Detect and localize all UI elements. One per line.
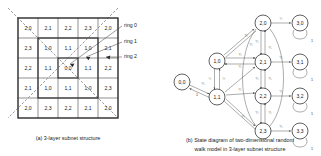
grid-cell-0-2: 2,2 [64,25,71,31]
self-loop-label-32: 1 [311,112,313,116]
state-node-2-2: 2,2 [260,94,267,99]
edge-label-23-22: ¼ [269,111,273,115]
state-node-2-1: 2,1 [260,60,267,65]
grid-cell-2-4: 2,2 [104,65,111,71]
grid-cell-4-1: 2,3 [44,105,51,111]
edge-label-11-00-back: ¼ [202,82,206,86]
grid-cell-3-0: 2,1 [24,85,31,91]
edge-label-10-21: ¼ [239,53,243,57]
edge-10-21 [225,58,256,64]
edge-label-22-21: ¼ [269,77,273,81]
edge-label-00-11-out: 1 [196,93,198,97]
panel-a-caption: (a) 3-layer subnet structure [36,135,101,141]
grid-cell-3-4: 2,3 [104,85,111,91]
edge-label-22-23: ¼ [256,111,260,115]
grid-cell-0-1: 2,1 [44,25,51,31]
grid-cell-1-1: 1,0 [44,45,51,51]
grid-cell-1-2: 1,1 [64,45,71,51]
panel-b-state-diagram: 1 ¼ ½ ½ ¼ ¼ ¼ ¼ [160,0,321,156]
grid-cell-4-0: 2,0 [24,105,31,111]
grid-cell-2-0: 2,2 [24,65,31,71]
edge-label-21-10: ¼ [239,65,243,69]
grid-cell-3-1: 1,0 [44,85,51,91]
edge-fan-11 [224,67,255,129]
self-loop-label-30: 1 [311,39,313,43]
ring-label-1: ring 1 [124,38,137,44]
state-nodes [174,15,308,139]
panel-a-subnet-structure: 2,0 2,1 2,2 2,3 2,0 2,3 1,0 1,1 1,0 2,1 … [0,0,160,156]
state-node-2-0: 2,0 [260,21,267,26]
grid-cell-2-1: 1,1 [44,65,51,71]
edge-label-20-30: ½ [280,17,283,21]
edge-to-absorbing [271,23,291,131]
edge-label-11-23: ¼ [242,115,246,119]
edge-10-11 [215,69,220,90]
grid-cell-0-0: 2,0 [24,25,31,31]
self-loop-label-31: 1 [311,78,313,82]
edge-label-21-20: ¼ [269,46,273,50]
state-node-3-3: 3,3 [297,129,304,134]
edge-chain-ring2 [261,30,265,124]
ring-label-0: ring 0 [124,22,137,28]
subnet-grid-svg: 2,0 2,1 2,2 2,3 2,0 2,3 1,0 1,1 1,0 2,1 … [0,0,160,156]
grid-cell-1-3: 1,0 [84,45,91,51]
grid-cell-3-3: 1,0 [84,85,91,91]
state-node-1-0: 1,0 [214,59,221,64]
edge-label-21-31: ¼ [280,56,284,60]
grid-cell-1-0: 2,3 [24,45,31,51]
grid-cell-4-3: 2,1 [84,105,91,111]
grid-cell-2-2: 0,0 [64,65,71,71]
state-node-3-0: 3,0 [297,21,304,26]
edge-00-11 [190,85,210,98]
edge-label-20-21: ¼ [256,40,260,44]
panel-b-caption-line1: (b) State diagram of two-dimensional ran… [186,137,294,143]
state-node-2-3: 2,3 [260,129,267,134]
grid-cell-3-2: 1,1 [64,85,71,91]
grid-cell-2-3: 1,1 [84,65,91,71]
edge-label-10-11: ½ [209,77,212,81]
edge-label-20-10: ¼ [250,43,254,47]
edge-label-11-10: ½ [223,77,226,81]
self-loop-label-33: 1 [311,147,313,151]
grid-cell-4-4: 2,0 [104,105,111,111]
edge-label-11-22: ¼ [239,88,243,92]
figure-container: 2,0 2,1 2,2 2,3 2,0 2,3 1,0 1,1 1,0 2,1 … [0,0,321,156]
state-diagram-svg: 1 ¼ ½ ½ ¼ ¼ ¼ ¼ [160,0,321,156]
state-node-3-1: 3,1 [297,60,304,65]
panel-b-caption-line2: walk model in 3-layer subnet structure [194,146,286,152]
grid-cell-4-2: 2,2 [64,105,71,111]
ring-label-2: ring 2 [124,53,137,59]
state-node-3-2: 3,2 [297,94,304,99]
state-node-0-0: 0,0 [179,80,186,85]
edge-label-21-22: ¼ [256,77,260,81]
grid-cell-0-4: 2,0 [104,25,111,31]
edge-label-23-33: ¼ [280,125,284,129]
grid-cell-0-3: 2,3 [84,25,91,31]
state-node-1-1: 1,1 [214,95,221,100]
